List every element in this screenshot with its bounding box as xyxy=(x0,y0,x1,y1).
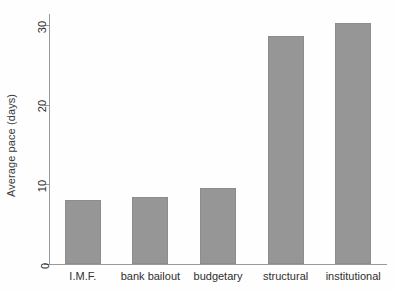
plot-area: 0102030 I.M.F.bank bailoutbudgetarystruc… xyxy=(49,14,387,265)
x-axis-category-label: structural xyxy=(263,270,308,282)
x-axis-category-label: I.M.F. xyxy=(69,270,96,282)
y-axis-title: Average pace (days) xyxy=(0,0,22,291)
bar xyxy=(268,36,304,264)
bar xyxy=(65,200,101,264)
bar xyxy=(200,188,236,264)
bar xyxy=(132,197,168,264)
y-axis-tick-label: 30 xyxy=(36,19,48,33)
y-axis-line xyxy=(49,14,50,265)
bar xyxy=(335,23,371,264)
y-axis-tick-label: 0 xyxy=(39,260,51,268)
y-axis-tick-label: 10 xyxy=(36,178,48,192)
x-axis-category-label: bank bailout xyxy=(121,270,180,282)
x-axis-line xyxy=(49,264,387,265)
y-axis-tick-label: 20 xyxy=(36,98,48,112)
x-axis-category-label: budgetary xyxy=(194,270,243,282)
bar-chart-figure: Average pace (days) 0102030 I.M.F.bank b… xyxy=(0,0,395,291)
x-axis-category-label: institutional xyxy=(326,270,381,282)
